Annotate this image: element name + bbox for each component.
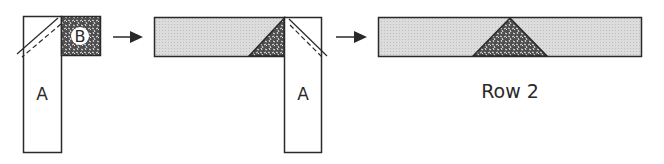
step2-group: A — [155, 18, 328, 153]
row2-caption: Row 2 — [481, 80, 539, 102]
step1-group: A B — [17, 17, 101, 153]
quilt-row-diagram: A B A Row 2 — [0, 0, 664, 164]
arrow-right-icon — [336, 31, 367, 43]
step3-group: Row 2 — [379, 18, 642, 103]
strip-a-label-step2: A — [297, 84, 309, 104]
strip-a-label-step1: A — [36, 84, 48, 104]
square-b-label: B — [75, 27, 86, 46]
arrow-right-icon — [113, 31, 143, 43]
